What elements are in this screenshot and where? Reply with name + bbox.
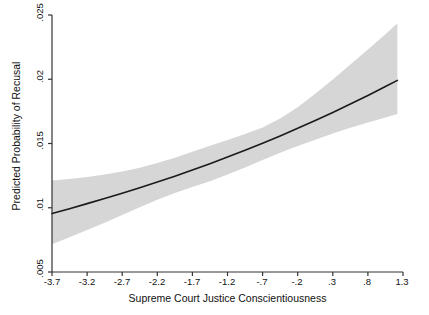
confidence-band: [52, 23, 397, 244]
confidence-band-group: [52, 23, 397, 244]
plot-area: [0, 0, 429, 315]
chart-figure: Predicted Probability of Recusal .025 .0…: [0, 0, 429, 315]
